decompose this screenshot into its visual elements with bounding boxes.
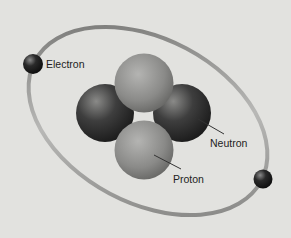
electron-lower-right (254, 170, 273, 189)
electron-label: Electron (46, 58, 85, 70)
atom-diagram: Electron Neutron Proton (0, 0, 291, 238)
nucleus (76, 54, 211, 180)
neutron-label: Neutron (210, 137, 248, 149)
electron-orbit (0, 0, 291, 238)
electron-upper-left (23, 54, 43, 74)
proton-top (115, 54, 174, 113)
proton-label: Proton (173, 173, 204, 185)
proton-bottom (115, 121, 174, 180)
